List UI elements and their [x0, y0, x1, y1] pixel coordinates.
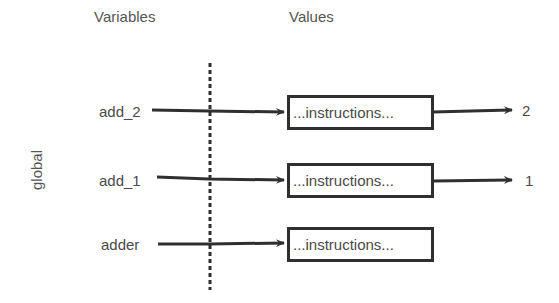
- variable-add-1: add_1: [99, 172, 141, 190]
- arrow-adder-to-box: [158, 243, 284, 244]
- value-box-text: ...instructions...: [293, 104, 394, 121]
- value-box-text: ...instructions...: [293, 172, 394, 189]
- diagram-connectors: [0, 0, 559, 303]
- variable-add-2: add_2: [99, 103, 141, 121]
- value-box-adder: ...instructions...: [287, 227, 434, 262]
- arrow-add2-to-box: [152, 110, 284, 112]
- value-box-add-2: ...instructions...: [287, 95, 434, 130]
- arrow-box2-to-1: [433, 180, 512, 181]
- return-value-2: 2: [522, 102, 530, 119]
- value-box-add-1: ...instructions...: [287, 163, 434, 198]
- arrow-add1-to-box: [157, 177, 284, 180]
- return-value-1: 1: [525, 172, 533, 189]
- variable-adder: adder: [101, 236, 139, 254]
- value-box-text: ...instructions...: [293, 236, 394, 253]
- arrow-box1-to-2: [433, 110, 512, 112]
